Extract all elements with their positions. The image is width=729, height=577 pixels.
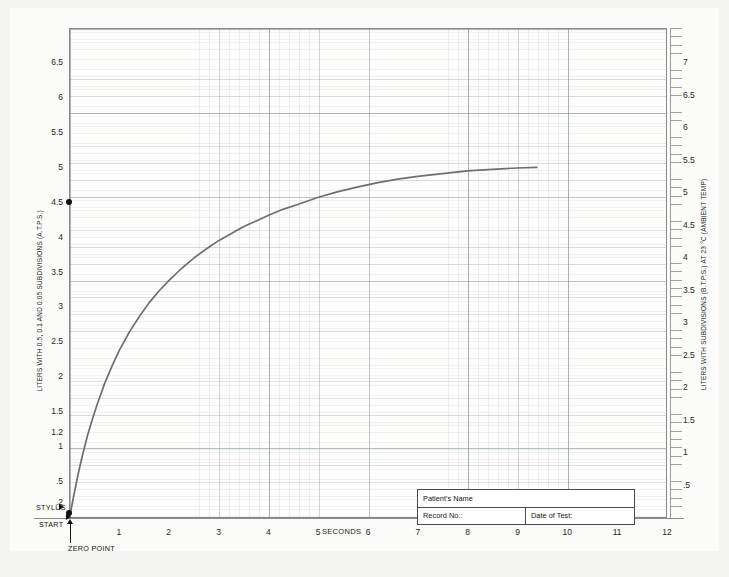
y-tick-left-1: 1 — [58, 442, 63, 451]
y-tick-left-4p5: 4.5 — [51, 197, 63, 206]
y-tick-right-1: 1 — [683, 448, 688, 457]
y-axis-right-ticks: 76.565.554.543.532.521.51.5 — [669, 0, 729, 577]
y-axis-right-label: LITERS WITH SUBDIVISIONS (B.T.P.S.) AT 2… — [700, 179, 707, 390]
x-tick-9: 9 — [515, 528, 520, 537]
chart-sheet: 6.565.554.543.532.521.51.21.5.2 76.565.5… — [0, 0, 729, 577]
record-no-field[interactable]: Record No.: — [418, 508, 526, 525]
y-tick-left-1p2: 1.2 — [51, 428, 63, 437]
y-axis-left-ticks: 6.565.554.543.532.521.51.21.5.2 — [0, 0, 69, 577]
y-tick-right-7: 7 — [683, 58, 688, 67]
patient-form-box: Patient's Name Record No.: Date of Test: — [417, 489, 635, 525]
y-tick-left-p5: .5 — [56, 477, 63, 486]
y-tick-left-5p5: 5.5 — [51, 128, 63, 137]
plot-area — [69, 28, 667, 518]
y-tick-left-5: 5 — [58, 163, 63, 172]
vital-capacity-marker-dot — [66, 199, 72, 205]
y-axis-left-label: LITERS WITH 0.5, 0.1 AND 0.05 SUBDIVISIO… — [36, 210, 43, 391]
date-of-test-field[interactable]: Date of Test: — [526, 508, 634, 525]
zero-point-leader-line — [70, 521, 71, 543]
y-tick-right-3p5: 3.5 — [683, 285, 695, 294]
zero-point-marker-dot — [66, 510, 72, 516]
x-tick-11: 11 — [613, 528, 622, 537]
patient-name-row: Patient's Name — [418, 490, 634, 508]
y-tick-left-3: 3 — [58, 302, 63, 311]
y-tick-right-5: 5 — [683, 188, 688, 197]
x-tick-8: 8 — [465, 528, 470, 537]
y-tick-right-6: 6 — [683, 123, 688, 132]
start-label: START — [39, 521, 63, 528]
patient-name-field[interactable]: Patient's Name — [418, 490, 634, 507]
x-tick-1: 1 — [116, 528, 121, 537]
y-tick-right-6p5: 6.5 — [683, 90, 695, 99]
y-tick-right-4p5: 4.5 — [683, 220, 695, 229]
y-tick-left-6p5: 6.5 — [51, 58, 63, 67]
x-tick-4: 4 — [266, 528, 271, 537]
spirogram-curve-path — [70, 167, 537, 515]
x-tick-6: 6 — [366, 528, 371, 537]
x-tick-7: 7 — [415, 528, 420, 537]
y-tick-left-2p5: 2.5 — [51, 337, 63, 346]
y-tick-right-p5: .5 — [683, 480, 690, 489]
stylus-arrow-icon — [59, 504, 64, 510]
zero-point-label: ZERO POINT — [68, 545, 115, 552]
zero-point-arrow-icon — [67, 519, 73, 524]
y-tick-right-1p5: 1.5 — [683, 415, 695, 424]
y-tick-right-2p5: 2.5 — [683, 350, 695, 359]
record-date-row: Record No.: Date of Test: — [418, 508, 634, 525]
spirogram-curve — [70, 29, 666, 517]
y-tick-left-4: 4 — [58, 232, 63, 241]
y-tick-left-3p5: 3.5 — [51, 267, 63, 276]
y-tick-right-5p5: 5.5 — [683, 155, 695, 164]
x-tick-12: 12 — [662, 528, 671, 537]
x-tick-3: 3 — [216, 528, 221, 537]
y-tick-left-1p5: 1.5 — [51, 407, 63, 416]
x-axis-label: SECONDS — [322, 528, 361, 536]
x-tick-2: 2 — [166, 528, 171, 537]
y-tick-right-3: 3 — [683, 318, 688, 327]
x-tick-5: 5 — [316, 528, 321, 537]
y-tick-right-4: 4 — [683, 253, 688, 262]
y-tick-right-2: 2 — [683, 383, 688, 392]
y-tick-left-2: 2 — [58, 372, 63, 381]
x-tick-10: 10 — [563, 528, 572, 537]
y-tick-left-6: 6 — [58, 93, 63, 102]
